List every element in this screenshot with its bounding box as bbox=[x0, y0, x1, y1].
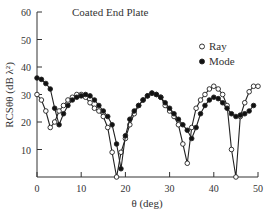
data-point bbox=[242, 100, 247, 105]
data-point bbox=[128, 117, 133, 122]
data-point bbox=[48, 125, 53, 130]
data-point bbox=[101, 109, 106, 114]
data-point bbox=[247, 109, 252, 114]
data-point bbox=[114, 175, 119, 180]
x-tick-label: 10 bbox=[76, 183, 86, 194]
data-point bbox=[256, 84, 261, 89]
data-point bbox=[141, 98, 146, 103]
y-tick-label: 40 bbox=[21, 62, 31, 73]
data-point bbox=[234, 175, 239, 180]
series-mode bbox=[35, 76, 256, 171]
data-point bbox=[229, 111, 234, 116]
open-circle-icon bbox=[200, 44, 205, 49]
data-point bbox=[110, 150, 115, 155]
data-point bbox=[97, 109, 102, 114]
x-axis-label: θ (deg) bbox=[131, 197, 163, 210]
x-tick-label: 40 bbox=[209, 183, 219, 194]
data-point bbox=[229, 147, 234, 152]
legend: RayMode bbox=[200, 40, 235, 67]
data-point bbox=[110, 122, 115, 127]
y-tick-label: 60 bbox=[21, 7, 31, 18]
data-point bbox=[57, 109, 62, 114]
data-point bbox=[163, 100, 168, 105]
data-point bbox=[66, 98, 71, 103]
data-point bbox=[189, 125, 194, 130]
data-point bbox=[61, 111, 66, 116]
plot-series bbox=[35, 76, 261, 180]
data-point bbox=[181, 142, 186, 147]
data-point bbox=[251, 84, 256, 89]
data-point bbox=[70, 98, 75, 103]
data-point bbox=[216, 87, 221, 92]
data-point bbox=[61, 103, 66, 108]
data-point bbox=[189, 136, 194, 141]
data-point bbox=[88, 100, 93, 105]
data-point bbox=[39, 98, 44, 103]
data-point bbox=[203, 103, 208, 108]
data-point bbox=[105, 125, 110, 130]
data-point bbox=[92, 106, 97, 111]
data-point bbox=[74, 95, 79, 100]
legend-label-mode: Mode bbox=[209, 55, 235, 67]
x-axis: 01020304050 bbox=[35, 172, 264, 194]
data-point bbox=[203, 92, 208, 97]
chart-title: Coated End Plate bbox=[72, 6, 148, 18]
data-point bbox=[167, 106, 172, 111]
data-point bbox=[150, 91, 155, 96]
x-tick-label: 50 bbox=[253, 183, 263, 194]
data-point bbox=[145, 94, 150, 99]
data-point bbox=[207, 98, 212, 103]
y-axis-label: RCSθθ (dB λ²) bbox=[3, 62, 16, 128]
data-point bbox=[234, 114, 239, 119]
data-point bbox=[198, 98, 203, 103]
data-point bbox=[132, 109, 137, 114]
data-point bbox=[57, 122, 62, 127]
y-axis: 102030405060 bbox=[21, 7, 42, 177]
data-point bbox=[66, 103, 71, 108]
data-point bbox=[154, 92, 159, 97]
data-point bbox=[44, 109, 49, 114]
data-point bbox=[185, 161, 190, 166]
data-point bbox=[83, 92, 88, 97]
data-point bbox=[207, 87, 212, 92]
data-point bbox=[35, 92, 40, 97]
data-point bbox=[212, 84, 217, 89]
data-point bbox=[88, 94, 93, 99]
x-tick-label: 20 bbox=[120, 183, 130, 194]
data-point bbox=[172, 111, 177, 116]
data-point bbox=[212, 95, 217, 100]
data-point bbox=[48, 87, 53, 92]
data-point bbox=[176, 122, 181, 127]
data-point bbox=[220, 100, 225, 105]
data-point bbox=[216, 96, 221, 101]
data-point bbox=[225, 106, 230, 111]
data-point bbox=[35, 76, 40, 81]
data-point bbox=[39, 77, 44, 82]
data-point bbox=[101, 114, 106, 119]
data-point bbox=[185, 128, 190, 133]
data-point bbox=[181, 122, 186, 127]
data-point bbox=[119, 166, 124, 171]
data-point bbox=[251, 103, 256, 108]
data-point bbox=[158, 95, 163, 100]
legend-label-ray: Ray bbox=[209, 40, 227, 52]
y-tick-label: 50 bbox=[21, 35, 31, 46]
data-point bbox=[136, 103, 141, 108]
data-point bbox=[220, 92, 225, 97]
data-point bbox=[198, 111, 203, 116]
data-point bbox=[194, 125, 199, 130]
data-point bbox=[176, 117, 181, 122]
data-point bbox=[52, 120, 57, 125]
x-tick-label: 0 bbox=[35, 183, 40, 194]
data-point bbox=[194, 106, 199, 111]
data-point bbox=[114, 142, 119, 147]
y-tick-label: 30 bbox=[21, 90, 31, 101]
y-tick-label: 20 bbox=[21, 117, 31, 128]
data-point bbox=[52, 106, 57, 111]
data-point bbox=[247, 89, 252, 94]
data-point bbox=[105, 114, 110, 119]
data-point bbox=[79, 94, 84, 99]
filled-circle-icon bbox=[200, 59, 205, 64]
x-tick-label: 30 bbox=[165, 183, 175, 194]
data-point bbox=[92, 98, 97, 103]
